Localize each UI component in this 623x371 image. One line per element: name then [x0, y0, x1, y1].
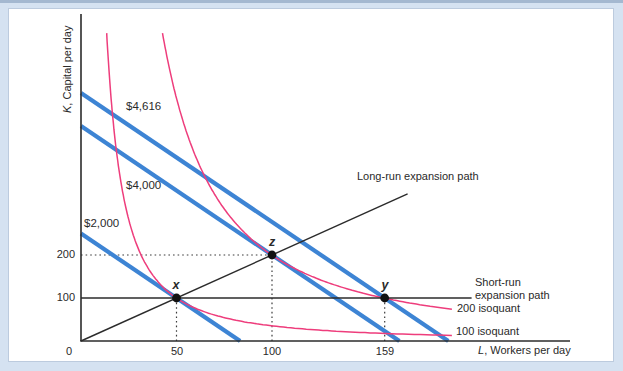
point-y-label: y: [375, 279, 395, 291]
short-run-expansion-path-label: Short-run expansion path: [475, 276, 567, 301]
data-point-y: [380, 294, 389, 303]
y-axis-title-rest: , Capital per day: [61, 26, 73, 106]
x-tick-100: 100: [257, 345, 287, 357]
isocost-label-2000: $2,000: [84, 217, 119, 229]
x-axis-title-rest: , Workers per day: [484, 344, 571, 356]
point-z-label: z: [262, 236, 282, 248]
y-axis-title: K, Capital per day: [61, 26, 73, 113]
x-tick-0: 0: [54, 345, 84, 357]
long-run-expansion-path-label: Long-run expansion path: [357, 170, 479, 182]
y-tick-100: 100: [38, 291, 75, 303]
isocost-line: [81, 234, 240, 342]
x-axis-title: L, Workers per day: [478, 344, 571, 356]
data-point-z: [268, 251, 277, 260]
y-axis-variable: K: [61, 106, 73, 113]
isocost-label-4616: $4,616: [126, 100, 161, 112]
isoquant-label-100: 100 isoquant: [456, 325, 519, 337]
isocost-label-4000: $4,000: [126, 179, 161, 191]
x-tick-50: 50: [162, 345, 192, 357]
isoquant-isocost-figure: [0, 0, 623, 371]
isocost-line: [81, 126, 399, 341]
point-x-label: x: [166, 279, 186, 291]
y-tick-200: 200: [38, 248, 75, 260]
isoquant-label-200: 200 isoquant: [457, 302, 520, 314]
isocost-line: [81, 93, 448, 341]
x-tick-159: 159: [370, 345, 400, 357]
data-point-x: [172, 294, 181, 303]
